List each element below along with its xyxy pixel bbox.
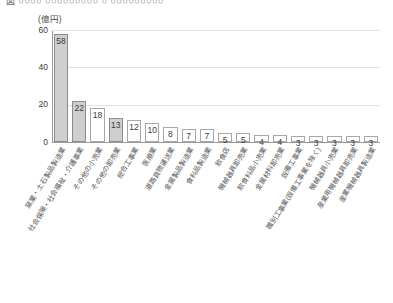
bar: 5 bbox=[218, 133, 232, 142]
bar: 3 bbox=[291, 136, 305, 142]
y-axis-tick-label: 20 bbox=[18, 99, 48, 109]
category-label: 飲食料品小売業 bbox=[177, 146, 269, 286]
category-label: 機械器具卸売業 bbox=[159, 146, 251, 286]
bar-value-label: 5 bbox=[219, 135, 231, 145]
bar: 8 bbox=[163, 127, 177, 142]
category-label: 産業用機械器具卸売業 bbox=[268, 146, 360, 286]
bar-value-label: 3 bbox=[292, 138, 304, 148]
bar: 4 bbox=[254, 135, 268, 142]
bar-value-label: 5 bbox=[237, 135, 249, 145]
bar-value-label: 7 bbox=[201, 131, 213, 141]
bar: 7 bbox=[200, 129, 214, 142]
gridline bbox=[52, 30, 380, 31]
bar-value-label: 3 bbox=[365, 138, 377, 148]
y-axis-tick-label: 60 bbox=[18, 25, 48, 35]
bar: 3 bbox=[346, 136, 360, 142]
category-label: その他の小売業 bbox=[13, 146, 105, 286]
bar-value-label: 10 bbox=[146, 125, 158, 135]
y-axis-unit-label: (億円) bbox=[38, 12, 62, 24]
y-axis-tick-label: 40 bbox=[18, 62, 48, 72]
category-label: 金属材料卸売業 bbox=[195, 146, 287, 286]
category-label: 道路貨物運送業 bbox=[86, 146, 178, 286]
bar: 4 bbox=[273, 135, 287, 142]
gridline bbox=[52, 105, 380, 106]
bar: 10 bbox=[145, 123, 159, 142]
category-label: 金属製品製造業 bbox=[104, 146, 196, 286]
category-label: 医療業 bbox=[67, 146, 159, 286]
category-label: 総合工事業 bbox=[49, 146, 141, 286]
bar-value-label: 4 bbox=[255, 137, 267, 147]
bar: 7 bbox=[182, 129, 196, 142]
bar: 18 bbox=[90, 108, 104, 142]
bar-value-label: 18 bbox=[91, 110, 103, 120]
bar: 5 bbox=[236, 133, 250, 142]
bar-value-label: 58 bbox=[55, 36, 67, 46]
bar-value-label: 3 bbox=[347, 138, 359, 148]
category-label: 産業機械器具製造業 bbox=[286, 146, 378, 286]
plot-area: 582218131210877554433333 bbox=[52, 30, 380, 142]
bar-chart: (億円) 582218131210877554433333 窯業・土石製品製造業… bbox=[0, 0, 393, 303]
bar: 13 bbox=[109, 118, 123, 142]
bar: 12 bbox=[127, 120, 141, 142]
category-label: 職別工事業(設備工事業を除く) bbox=[231, 146, 323, 286]
bar-value-label: 12 bbox=[128, 122, 140, 132]
y-axis-tick-label: 0 bbox=[18, 137, 48, 147]
bar: 3 bbox=[309, 136, 323, 142]
category-label: 社会保険・社会福祉・介護事業 bbox=[0, 146, 86, 286]
bar: 3 bbox=[327, 136, 341, 142]
bar-value-label: 22 bbox=[73, 103, 85, 113]
bar-value-label: 7 bbox=[183, 131, 195, 141]
category-label: 設備工事業 bbox=[213, 146, 305, 286]
bar: 58 bbox=[54, 34, 68, 142]
category-label: 窯業・土石製品製造業 bbox=[0, 146, 68, 286]
bar-value-label: 8 bbox=[164, 129, 176, 139]
bar-value-label: 4 bbox=[274, 137, 286, 147]
bar-value-label: 3 bbox=[310, 138, 322, 148]
category-label: 食料品製造業 bbox=[122, 146, 214, 286]
category-label: その他の卸売業 bbox=[31, 146, 123, 286]
bar: 22 bbox=[72, 101, 86, 142]
category-label: 飲食店 bbox=[140, 146, 232, 286]
bar-value-label: 13 bbox=[110, 120, 122, 130]
bar: 3 bbox=[364, 136, 378, 142]
gridline bbox=[52, 67, 380, 68]
bar-value-label: 3 bbox=[328, 138, 340, 148]
category-label: 機械器具小売業 bbox=[250, 146, 342, 286]
